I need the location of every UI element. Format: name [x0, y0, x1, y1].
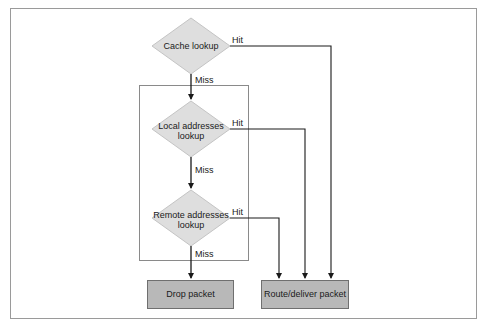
local-hit-label: Hit	[232, 118, 243, 128]
cache-lookup-label: Cache lookup	[163, 41, 218, 51]
flowchart-canvas: Cache lookup Local addresses lookup Remo…	[0, 0, 485, 325]
route-deliver-label: Route/deliver packet	[264, 289, 347, 299]
drop-packet-node: Drop packet	[148, 281, 234, 309]
remote-miss-label: Miss	[195, 249, 214, 259]
cache-hit-label: Hit	[232, 35, 243, 45]
route-deliver-packet-node: Route/deliver packet	[262, 281, 349, 309]
remote-hit-label: Hit	[232, 207, 243, 217]
remote-lookup-label-line2: lookup	[178, 220, 205, 230]
outer-frame	[11, 9, 477, 319]
cache-miss-label: Miss	[195, 75, 214, 85]
local-lookup-label-line1: Local addresses	[158, 121, 224, 131]
remote-lookup-label-line1: Remote addresses	[153, 210, 229, 220]
local-lookup-label-line2: lookup	[178, 131, 205, 141]
drop-packet-label: Drop packet	[166, 289, 215, 299]
local-miss-label: Miss	[195, 165, 214, 175]
